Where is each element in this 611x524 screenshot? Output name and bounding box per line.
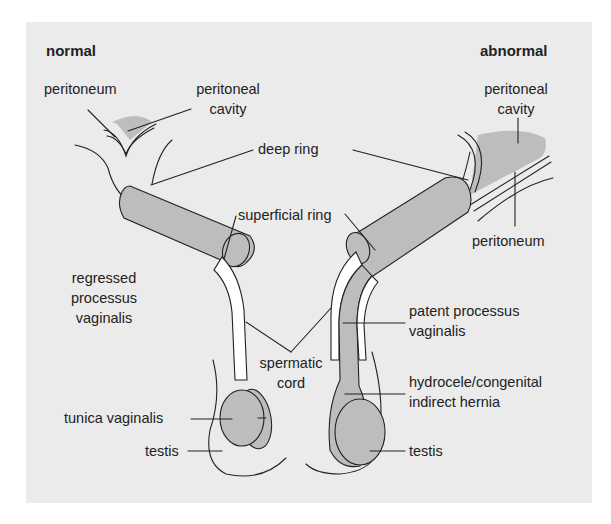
inguinal-canal-diagram (0, 0, 611, 524)
label-superficial-ring: superficial ring (238, 207, 332, 224)
abnormal-peritoneum (458, 131, 553, 221)
label-abnormal-peritoneal-cavity-2: cavity (476, 101, 556, 118)
abnormal-title: abnormal (480, 42, 548, 59)
label-regressed-3: vaginalis (62, 310, 146, 327)
label-normal-peritoneal-cavity-2: cavity (188, 101, 268, 118)
label-deep-ring: deep ring (258, 141, 318, 158)
label-hydrocele-1: hydrocele/congenital (409, 374, 542, 391)
label-patent-2: vaginalis (409, 323, 465, 340)
label-patent-1: patent processus (409, 303, 519, 320)
label-spermatic-1: spermatic (254, 355, 328, 372)
abnormal-testis (335, 399, 385, 465)
label-abnormal-peritoneal-cavity-1: peritoneal (476, 81, 556, 98)
label-tunica-vaginalis: tunica vaginalis (64, 410, 163, 427)
normal-inguinal-canal (119, 186, 254, 270)
label-normal-peritoneal-cavity-1: peritoneal (188, 81, 268, 98)
label-regressed-2: processus (62, 290, 146, 307)
normal-spermatic-cord (214, 257, 247, 380)
label-abnormal-testis: testis (409, 443, 443, 460)
label-normal-peritoneum: peritoneum (44, 81, 117, 98)
label-abnormal-peritoneum: peritoneum (472, 233, 545, 250)
label-spermatic-2: cord (254, 375, 328, 392)
label-normal-testis: testis (145, 443, 179, 460)
label-hydrocele-2: indirect hernia (409, 394, 500, 411)
normal-title: normal (46, 42, 96, 59)
label-regressed-1: regressed (62, 270, 146, 287)
abnormal-inguinal-canal (342, 177, 471, 277)
